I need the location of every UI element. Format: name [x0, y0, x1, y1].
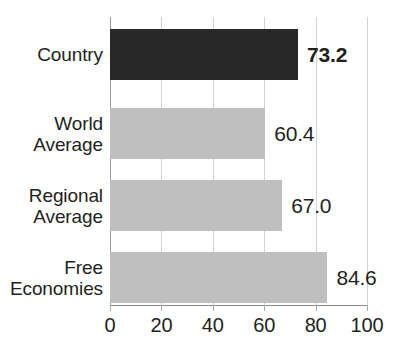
bar-row: RegionalAverage67.0 — [0, 180, 406, 231]
bar-country — [110, 29, 298, 80]
bar-value-label: 73.2 — [307, 43, 347, 67]
tick-mark-0 — [110, 305, 111, 311]
category-label: FreeEconomies — [0, 257, 103, 299]
x-axis-line — [110, 305, 368, 306]
x-tick-label-80: 80 — [305, 314, 327, 337]
tick-mark-60 — [264, 305, 265, 311]
bar-row: Country73.2 — [0, 29, 406, 80]
category-label: Country — [0, 44, 103, 65]
category-label-line: Country — [0, 44, 103, 65]
category-label-line: Regional — [0, 185, 103, 206]
tick-mark-100 — [367, 305, 368, 311]
x-tick-label-40: 40 — [202, 314, 224, 337]
bar-world-average — [110, 108, 265, 159]
bar-row: WorldAverage60.4 — [0, 108, 406, 159]
x-tick-label-20: 20 — [150, 314, 172, 337]
bar-regional-average — [110, 180, 282, 231]
bar-value-label: 60.4 — [274, 122, 314, 146]
bar-row: FreeEconomies84.6 — [0, 252, 406, 303]
category-label-line: Free — [0, 257, 103, 278]
tick-mark-80 — [316, 305, 317, 311]
x-tick-label-100: 100 — [351, 314, 384, 337]
category-label-line: Economies — [0, 278, 103, 299]
bar-free-economies — [110, 252, 327, 303]
x-tick-label-60: 60 — [253, 314, 275, 337]
tick-mark-20 — [161, 305, 162, 311]
category-label-line: Average — [0, 134, 103, 155]
bar-chart: Country73.2WorldAverage60.4RegionalAvera… — [0, 0, 406, 361]
bar-value-label: 84.6 — [336, 266, 376, 290]
category-label-line: World — [0, 113, 103, 134]
tick-mark-40 — [213, 305, 214, 311]
category-label: WorldAverage — [0, 113, 103, 155]
category-label-line: Average — [0, 206, 103, 227]
bar-value-label: 67.0 — [291, 194, 331, 218]
category-label: RegionalAverage — [0, 185, 103, 227]
x-tick-label-0: 0 — [105, 314, 116, 337]
